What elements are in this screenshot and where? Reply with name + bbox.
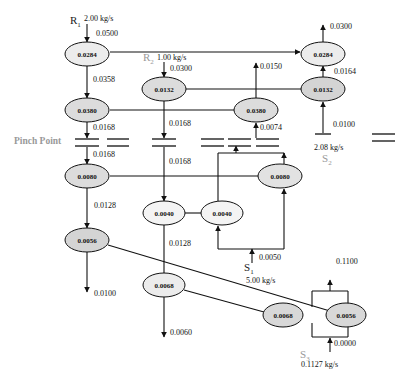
source-labels: R1 2.00 kg/s 0.0500 R2 1.00 kg/s 0.0300 … [70,14,356,369]
edge-n12-n13 [184,290,264,312]
source-s2-conc: 0.0100 [333,120,355,129]
svg-text:0.0068: 0.0068 [154,282,174,290]
svg-text:0.0284: 0.0284 [77,51,97,59]
source-s3-flow: 0.1127 kg/s [301,360,338,369]
node-n1[interactable]: 0.0284 [65,42,109,66]
label-n3-n4: 0.0128 [94,201,116,210]
label-n6-out: 0.0150 [260,62,282,71]
label-n7-out: 0.0300 [330,22,352,31]
node-n5[interactable]: 0.0132 [142,77,186,101]
edge-n4-n14 [108,245,330,311]
edges [87,24,348,352]
svg-text:0.0040: 0.0040 [212,210,232,218]
node-n10[interactable]: 0.0040 [201,201,243,225]
node-n7[interactable]: 0.0284 [301,42,345,66]
pinch-bars [75,134,395,146]
node-n4[interactable]: 0.0056 [65,228,109,252]
node-n12[interactable]: 0.0068 [143,273,185,297]
label-n12-out: 0.0060 [170,328,192,337]
svg-text:0.0132: 0.0132 [154,86,174,94]
source-r1-conc: 0.0500 [96,29,118,38]
source-s1-name: S1 [244,261,254,276]
svg-text:0.0080: 0.0080 [270,173,290,181]
label-n4-out: 0.0100 [94,289,116,298]
pinch-point-label: Pinch Point [14,136,62,146]
source-s2-name: S2 [322,152,332,167]
node-n14[interactable]: 0.0056 [326,303,366,327]
label-s3-out: 0.1100 [336,257,358,266]
source-r1-name: R1 [70,14,81,29]
svg-text:0.0056: 0.0056 [336,312,356,320]
node-n2[interactable]: 0.0380 [65,98,109,122]
svg-text:0.0380: 0.0380 [77,107,97,115]
source-s2-flow: 2.08 kg/s [314,143,343,152]
water-network-diagram: Pinch Point 0.0284 0.0380 0.0080 0.0056 … [0,0,410,383]
label-n9-n12: 0.0128 [169,239,191,248]
node-n13[interactable]: 0.0068 [263,303,303,327]
source-r2-flow: 1.00 kg/s [157,53,186,62]
node-n8[interactable]: 0.0132 [301,77,345,101]
svg-text:0.0284: 0.0284 [313,51,333,59]
node-n11[interactable]: 0.0080 [258,164,302,188]
source-s1-flow: 5.00 kg/s [246,276,275,285]
label-n1-n2: 0.0358 [93,75,115,84]
label-n6-in: 0.0074 [260,123,282,132]
label-n5-down: 0.0168 [169,119,191,128]
label-pinch-n9: 0.0168 [169,157,191,166]
svg-text:0.0040: 0.0040 [154,210,174,218]
svg-text:0.0132: 0.0132 [313,86,333,94]
node-n9[interactable]: 0.0040 [143,201,185,225]
source-r2-name: R2 [143,51,154,66]
label-n8-n7: 0.0164 [334,67,356,76]
label-pinch-n3: 0.0168 [93,150,115,159]
node-n6[interactable]: 0.0380 [234,98,278,122]
source-r2-conc: 0.0300 [170,64,192,73]
edge-labels: 0.0358 0.0168 0.0168 0.0168 0.0168 0.012… [93,22,358,337]
nodes: 0.0284 0.0380 0.0080 0.0056 0.0132 0.038… [65,42,366,327]
svg-text:0.0380: 0.0380 [246,107,266,115]
source-s3-conc: 0.0000 [334,339,356,348]
node-n3[interactable]: 0.0080 [65,164,109,188]
source-r1-flow: 2.00 kg/s [84,14,113,23]
source-s1-conc: 0.0050 [259,253,281,262]
svg-text:0.0068: 0.0068 [273,312,293,320]
svg-text:0.0056: 0.0056 [77,237,97,245]
svg-text:0.0080: 0.0080 [77,173,97,181]
label-n2-down: 0.0168 [93,123,115,132]
